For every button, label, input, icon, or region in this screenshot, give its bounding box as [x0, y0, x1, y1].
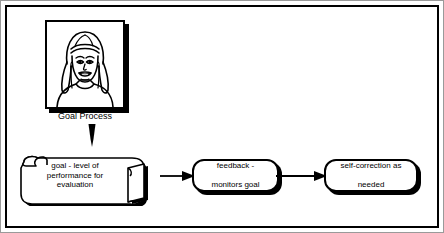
- node-self-correction-label: self-correction as needed: [336, 152, 407, 200]
- node-goal-line-3: evaluation: [16, 180, 134, 190]
- diagram-canvas: Goal Process goal - level of performance…: [0, 0, 444, 233]
- node-self-correction[interactable]: self-correction as needed: [324, 159, 418, 192]
- node-feedback-body: feedback - monitors goal: [192, 159, 279, 192]
- connector-goal-to-feedback: [160, 170, 196, 182]
- node-self-correction-line-1: self-correction as: [341, 161, 402, 171]
- node-feedback-line-2: monitors goal: [211, 180, 259, 190]
- picture-frame: [45, 20, 125, 109]
- node-feedback-line-1: feedback -: [211, 161, 259, 171]
- woman-face-icon: [47, 22, 123, 107]
- picture-caption: Goal Process: [30, 111, 140, 122]
- connector-feedback-to-self-correction: [276, 170, 328, 182]
- node-feedback-label: feedback - monitors goal: [206, 152, 264, 200]
- node-self-correction-body: self-correction as needed: [324, 159, 418, 192]
- node-goal-line-2: performance for: [16, 171, 134, 181]
- node-goal-label: goal - level of performance for evaluati…: [16, 161, 134, 190]
- node-self-correction-line-2: needed: [341, 180, 402, 190]
- node-feedback[interactable]: feedback - monitors goal: [192, 159, 279, 192]
- connector-arrow-down: [85, 124, 99, 148]
- picture-container: [45, 20, 125, 109]
- node-goal-line-1: goal - level of: [16, 161, 134, 171]
